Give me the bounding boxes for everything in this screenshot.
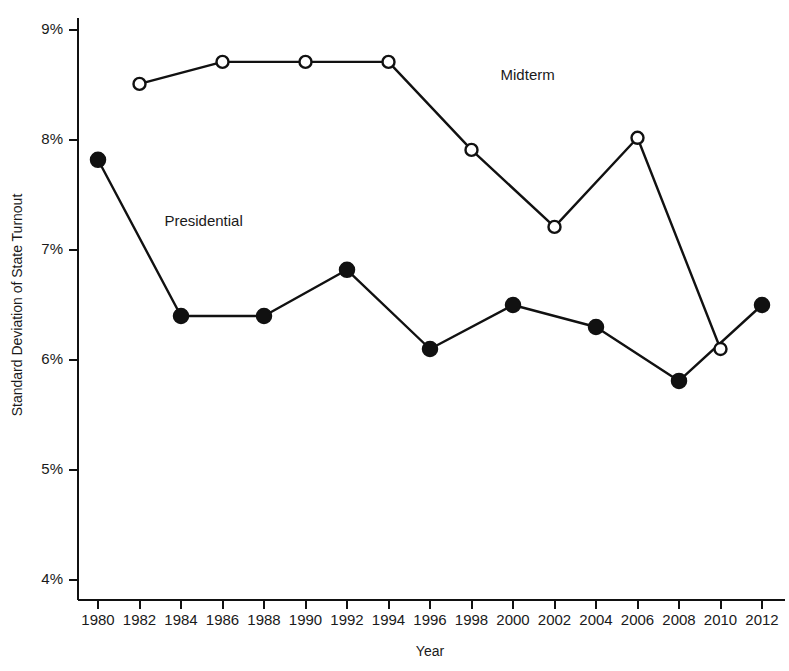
series-label-midterm: Midterm xyxy=(501,66,555,83)
data-point-midterm-2010[interactable] xyxy=(715,343,727,355)
x-tick-label: 1984 xyxy=(164,611,197,628)
data-point-presidential-2000[interactable] xyxy=(506,298,521,313)
x-tick-label: 2012 xyxy=(745,611,778,628)
series-label-presidential: Presidential xyxy=(164,212,242,229)
data-point-midterm-1990[interactable] xyxy=(300,56,312,68)
y-tick-label: 4% xyxy=(41,570,63,587)
data-point-presidential-1980[interactable] xyxy=(91,152,106,167)
data-point-presidential-1992[interactable] xyxy=(340,262,355,277)
x-tick-label: 1998 xyxy=(455,611,488,628)
x-tick-label: 1996 xyxy=(413,611,446,628)
data-point-presidential-1996[interactable] xyxy=(423,342,438,357)
y-tick-label: 8% xyxy=(41,130,63,147)
series-line-midterm xyxy=(140,62,721,349)
y-tick-label: 6% xyxy=(41,350,63,367)
line-chart: 4%5%6%7%8%9%1980198219841986198819901992… xyxy=(0,0,789,671)
x-tick-label: 1982 xyxy=(123,611,156,628)
x-tick-label: 2000 xyxy=(496,611,529,628)
data-point-midterm-1982[interactable] xyxy=(134,78,146,90)
x-tick-label: 1988 xyxy=(247,611,280,628)
data-point-midterm-1998[interactable] xyxy=(466,144,478,156)
x-tick-label: 1990 xyxy=(289,611,322,628)
x-tick-label: 2010 xyxy=(704,611,737,628)
data-point-midterm-2002[interactable] xyxy=(549,221,561,233)
x-axis-title: Year xyxy=(416,643,445,659)
data-point-presidential-2012[interactable] xyxy=(755,298,770,313)
data-point-presidential-1988[interactable] xyxy=(257,309,272,324)
x-tick-label: 1992 xyxy=(330,611,363,628)
x-tick-label: 1980 xyxy=(81,611,114,628)
y-tick-label: 7% xyxy=(41,240,63,257)
x-tick-label: 1986 xyxy=(206,611,239,628)
chart-page: 4%5%6%7%8%9%1980198219841986198819901992… xyxy=(0,0,789,671)
data-point-midterm-1986[interactable] xyxy=(217,56,229,68)
x-tick-label: 1994 xyxy=(372,611,405,628)
x-tick-label: 2008 xyxy=(662,611,695,628)
y-tick-label: 5% xyxy=(41,460,63,477)
data-point-presidential-2004[interactable] xyxy=(589,320,604,335)
x-tick-label: 2002 xyxy=(538,611,571,628)
data-point-midterm-2006[interactable] xyxy=(632,132,644,144)
y-tick-label: 9% xyxy=(41,20,63,37)
x-tick-label: 2004 xyxy=(579,611,612,628)
y-axis-title: Standard Deviation of State Turnout xyxy=(9,194,25,417)
data-point-presidential-1984[interactable] xyxy=(174,309,189,324)
data-point-midterm-1994[interactable] xyxy=(383,56,395,68)
x-tick-label: 2006 xyxy=(621,611,654,628)
data-point-presidential-2008[interactable] xyxy=(672,373,687,388)
